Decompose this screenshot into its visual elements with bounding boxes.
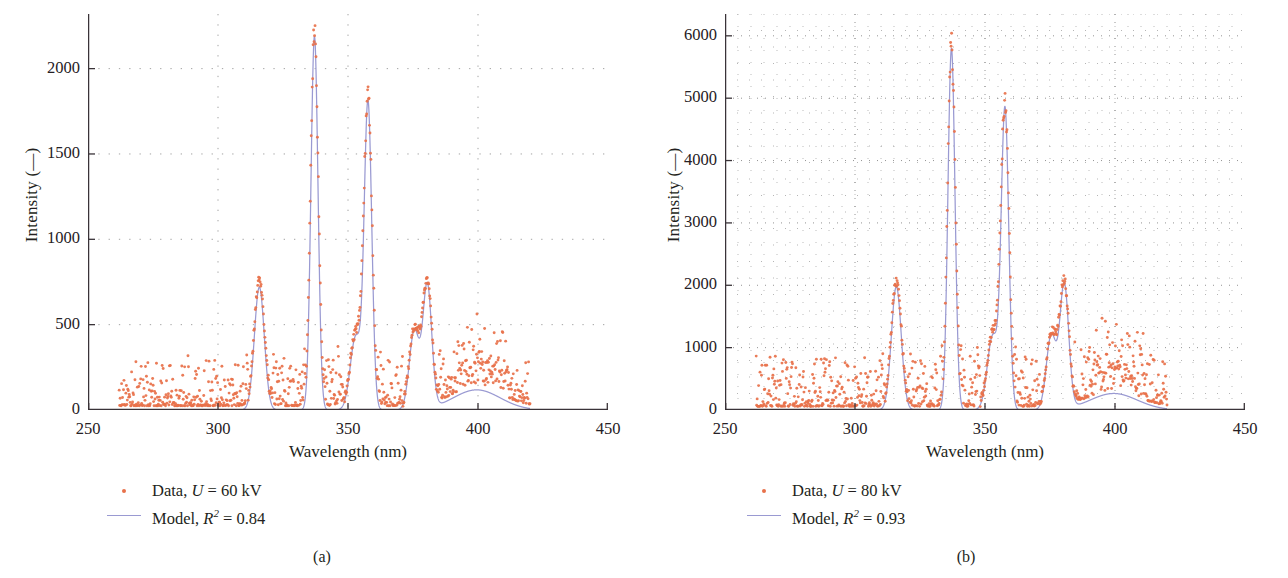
data-points-b [755, 32, 1169, 408]
figure-two-panel-spectra: Intensity (—) Wavelength (nm) Data, U = … [0, 0, 1288, 578]
spectrum-plot-a [88, 14, 608, 410]
legend-b: Data, U = 80 kVModel, R2 = 0.93 [736, 478, 905, 528]
x-axis-label-a: Wavelength (nm) [88, 442, 608, 462]
model-line-swatch [747, 515, 781, 517]
spectrum-plot-b [725, 14, 1245, 410]
y-tick-label-a-0: 0 [8, 399, 80, 419]
y-tick-label-a-3: 1500 [8, 143, 80, 163]
y-axis-label-a: Intensity (—) [22, 105, 42, 285]
legend-label-b-1: Model, R2 = 0.93 [792, 501, 905, 531]
legend-label-a-1: Model, R2 = 0.84 [152, 501, 265, 531]
y-tick-label-b-2: 2000 [645, 274, 717, 294]
x-tick-label-a-1: 300 [188, 419, 248, 439]
y-tick-label-b-1: 1000 [645, 337, 717, 357]
legend-item-a-1: Model, R2 = 0.84 [96, 503, 265, 528]
x-tick-label-a-2: 350 [318, 419, 378, 439]
model-curve-b [756, 48, 1167, 410]
legend-dot-marker-icon [96, 489, 152, 493]
grid-lines-b [725, 14, 1245, 410]
legend-item-a-0: Data, U = 60 kV [96, 478, 265, 503]
y-tick-label-a-1: 500 [8, 314, 80, 334]
legend-line-marker-icon [736, 515, 792, 517]
plot-area-b [725, 14, 1245, 410]
data-point-swatch [122, 489, 126, 493]
x-tick-label-b-2: 350 [955, 419, 1015, 439]
x-tick-label-a-4: 450 [578, 419, 638, 439]
x-tick-label-b-4: 450 [1215, 419, 1275, 439]
legend-item-b-0: Data, U = 80 kV [736, 478, 905, 503]
legend-item-b-1: Model, R2 = 0.93 [736, 503, 905, 528]
y-axis-label-b: Intensity (—) [664, 105, 684, 285]
panel-a: Intensity (—) Wavelength (nm) Data, U = … [0, 0, 644, 578]
x-tick-label-b-3: 400 [1085, 419, 1145, 439]
model-curve-a [119, 36, 530, 410]
x-tick-label-a-3: 400 [448, 419, 508, 439]
axis-lines-a [88, 14, 608, 410]
legend-line-marker-icon [96, 515, 152, 517]
y-tick-label-b-3: 3000 [645, 212, 717, 232]
grid-lines-a [88, 14, 608, 410]
y-tick-label-b-4: 4000 [645, 150, 717, 170]
y-tick-label-a-4: 2000 [8, 58, 80, 78]
x-axis-label-b: Wavelength (nm) [725, 442, 1245, 462]
legend-label-b-0: Data, U = 80 kV [792, 478, 902, 503]
y-tick-label-b-6: 6000 [645, 25, 717, 45]
caption-a: (a) [0, 548, 644, 566]
data-point-swatch [762, 489, 766, 493]
legend-dot-marker-icon [736, 489, 792, 493]
panel-b: Intensity (—) Wavelength (nm) Data, U = … [644, 0, 1288, 578]
data-points-a [118, 24, 532, 408]
model-line-swatch [107, 515, 141, 517]
x-tick-label-a-0: 250 [58, 419, 118, 439]
x-tick-label-b-1: 300 [825, 419, 885, 439]
legend-a: Data, U = 60 kVModel, R2 = 0.84 [96, 478, 265, 528]
x-tick-label-b-0: 250 [695, 419, 755, 439]
y-tick-label-b-0: 0 [645, 399, 717, 419]
plot-area-a [88, 14, 608, 410]
y-tick-label-a-2: 1000 [8, 228, 80, 248]
y-tick-label-b-5: 5000 [645, 87, 717, 107]
caption-b: (b) [644, 548, 1288, 566]
legend-label-a-0: Data, U = 60 kV [152, 478, 262, 503]
